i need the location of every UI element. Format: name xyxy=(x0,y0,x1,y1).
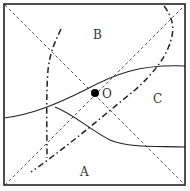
label-o: O xyxy=(102,87,112,101)
label-c: C xyxy=(153,92,162,106)
point-o-marker xyxy=(91,89,99,97)
solid-curve-lower xyxy=(55,107,185,147)
diagram-canvas: O B C A xyxy=(0,0,190,191)
label-a: A xyxy=(79,165,89,179)
label-b: B xyxy=(93,28,102,42)
